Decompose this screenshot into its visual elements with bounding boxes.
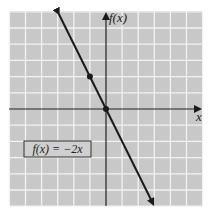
equation-label: f(x) = −2x	[32, 142, 83, 156]
y-axis-label: f(x)	[109, 10, 127, 25]
data-point	[87, 74, 93, 80]
x-axis-label: x	[195, 109, 202, 124]
function-graph: f(x) x f(x) = −2x	[0, 0, 211, 213]
data-point	[103, 106, 109, 112]
